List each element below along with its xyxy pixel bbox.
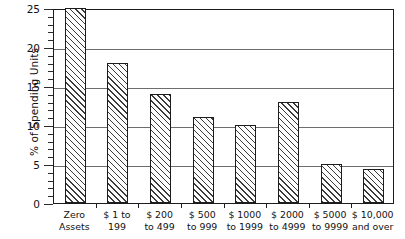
bar xyxy=(65,8,86,203)
bar xyxy=(150,94,171,203)
x-tick xyxy=(351,204,352,208)
x-category-label-line2: and over xyxy=(347,221,398,233)
y-axis-tick-labels: 0510152025 xyxy=(18,0,40,239)
bar xyxy=(235,125,256,203)
x-axis-category-labels: ZeroAssets$ 1 to199$ 200to 499$ 500to 99… xyxy=(53,209,394,239)
y-major-tick xyxy=(44,204,53,205)
y-tick-label: 15 xyxy=(18,82,40,92)
bar xyxy=(363,169,384,203)
bar xyxy=(193,117,214,203)
bar xyxy=(107,63,128,203)
y-major-tick xyxy=(44,165,53,166)
x-tick xyxy=(96,204,97,208)
x-tick xyxy=(224,204,225,208)
x-tick xyxy=(138,204,139,208)
y-major-tick xyxy=(44,48,53,49)
y-tick-label: 5 xyxy=(18,160,40,170)
x-category-label: $ 10,000and over xyxy=(347,209,398,232)
x-tick xyxy=(266,204,267,208)
y-tick-label: 25 xyxy=(18,4,40,14)
y-axis-tick-marks xyxy=(44,0,53,239)
y-tick-label: 10 xyxy=(18,121,40,131)
y-major-tick xyxy=(44,126,53,127)
bar xyxy=(278,102,299,203)
x-tick xyxy=(181,204,182,208)
y-major-tick xyxy=(44,87,53,88)
plot-area xyxy=(53,9,394,204)
x-tick xyxy=(309,204,310,208)
x-category-label-line1: $ 10,000 xyxy=(347,209,398,221)
bar xyxy=(321,164,342,203)
y-tick-label: 20 xyxy=(18,43,40,53)
y-tick-label: 0 xyxy=(18,199,40,209)
y-major-tick xyxy=(44,9,53,10)
bar-chart: % of Spending Units 0510152025 ZeroAsset… xyxy=(0,0,405,239)
bars-group xyxy=(54,10,393,203)
